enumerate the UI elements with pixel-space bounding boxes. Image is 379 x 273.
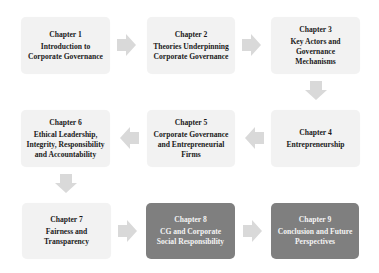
chapter-4-box: Chapter 4 Entrepreneurship: [271, 110, 360, 167]
chapter-title-line: Fairness and: [46, 227, 88, 237]
chapter-title-line: Entrepreneurship: [287, 140, 345, 150]
arrow-right-icon: [242, 34, 261, 56]
chapter-9-box: Chapter 9 Conclusion and Future Perspect…: [271, 203, 359, 259]
chapter-label: Chapter 4: [299, 128, 332, 138]
chapter-6-box: Chapter 6 Ethical Leadership, Integrity,…: [21, 110, 110, 167]
chapter-title-line: and Entrepreneurial: [158, 140, 225, 150]
arrow-right-icon: [243, 220, 262, 242]
chapter-label: Chapter 2: [175, 30, 208, 40]
chapter-title-line: Corporate Governance: [154, 52, 229, 62]
chapter-title-line: Mechanisms: [295, 57, 336, 67]
chapter-title-line: Governance: [296, 47, 335, 57]
chapter-label: Chapter 7: [50, 215, 83, 225]
arrow-right-icon: [117, 34, 136, 56]
chapter-3-box: Chapter 3 Key Actors and Governance Mech…: [271, 17, 360, 74]
chapter-title-line: Theories Underpinning: [153, 42, 229, 52]
chapter-title-line: Conclusion and Future: [278, 227, 353, 237]
chapter-title-line: Corporate Governance: [28, 52, 103, 62]
arrow-left-icon: [245, 127, 264, 149]
chapter-label: Chapter 8: [174, 215, 207, 225]
chapter-label: Chapter 1: [49, 30, 82, 40]
chapter-7-box: Chapter 7 Fairness and Transparency: [22, 203, 111, 259]
chapter-title-line: Firms: [181, 150, 200, 160]
chapter-title-line: Perspectives: [295, 237, 335, 247]
arrow-down-icon: [55, 174, 77, 193]
chapter-title-line: Integrity, Responsibility: [26, 140, 104, 150]
arrow-left-icon: [120, 127, 139, 149]
chapter-5-box: Chapter 5 Corporate Governance and Entre…: [147, 110, 235, 167]
chapter-title-line: CG and Corporate: [160, 227, 221, 237]
chapter-label: Chapter 6: [49, 118, 82, 128]
chapter-title-line: and Accountability: [35, 150, 96, 160]
chapter-label: Chapter 3: [299, 25, 332, 35]
chapter-8-box: Chapter 8 CG and Corporate Social Respon…: [146, 203, 235, 259]
chapter-label: Chapter 5: [175, 118, 208, 128]
chapter-title-line: Key Actors and: [290, 37, 340, 47]
chapter-title-line: Corporate Governance: [154, 130, 229, 140]
chapter-2-box: Chapter 2 Theories Underpinning Corporat…: [147, 17, 235, 74]
chapter-title-line: Social Responsibility: [157, 237, 224, 247]
arrow-down-icon: [305, 81, 327, 100]
arrow-right-icon: [118, 220, 137, 242]
chapter-1-box: Chapter 1 Introduction to Corporate Gove…: [21, 17, 110, 74]
chapter-title-line: Transparency: [44, 237, 89, 247]
chapter-label: Chapter 9: [299, 215, 332, 225]
chapter-title-line: Ethical Leadership,: [34, 130, 98, 140]
chapter-title-line: Introduction to: [41, 42, 90, 52]
